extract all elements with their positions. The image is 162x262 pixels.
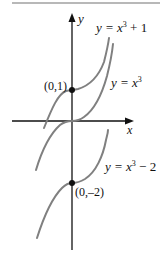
y-axis-arrow-icon [69,13,76,22]
y-axis-label: y [78,12,84,25]
curve-cubic [36,44,113,170]
label-cubic-minus-2: y = x3 − 2 [105,160,156,173]
point-0-1 [69,87,75,93]
label-cubic: y = x3 [111,76,142,89]
x-axis-label: x [127,124,132,136]
point-label-0-neg2: (0,–2) [75,186,104,198]
point-label-0-1: (0,1) [44,80,67,92]
label-cubic-plus-1: y = x3 + 1 [96,21,147,34]
y-axis [69,13,76,250]
cubic-translation-graph [0,0,162,262]
